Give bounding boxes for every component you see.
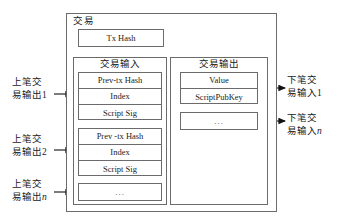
label-next-input-n-line2: 易输入n <box>287 125 322 138</box>
label-next-input-n-line1: 下笔交 <box>287 112 322 125</box>
label-prev-output-n-line1: 上笔交 <box>12 178 47 191</box>
output-1-value: Value <box>181 73 257 89</box>
input-1-prev-tx-hash: Prev-tx Hash <box>79 73 161 89</box>
label-prev-output-2-line1: 上笔交 <box>12 133 47 146</box>
output-group-1: Value ScriptPubKey <box>180 72 258 104</box>
label-next-input-1-line1: 下笔交 <box>287 74 322 87</box>
label-prev-output-1: 上笔交 易输出1 <box>12 76 47 101</box>
label-prev-output-n-index: n <box>42 192 47 202</box>
label-next-input-n-index: n <box>317 126 322 136</box>
input-1-script-sig: Script Sig <box>79 105 161 121</box>
label-prev-output-1-line1: 上笔交 <box>12 76 47 89</box>
input-2-prev-tx-hash: Prev -tx Hash <box>79 129 161 145</box>
label-next-input-1-index: 1 <box>317 88 322 98</box>
label-prev-output-2-index: 2 <box>42 147 47 157</box>
output-ellipsis-box: ... <box>180 112 258 130</box>
input-group-2: Prev -tx Hash Index Script Sig <box>78 128 162 176</box>
output-1-script-pub-key: ScriptPubKey <box>181 89 257 105</box>
label-prev-output-1-line2: 易输出1 <box>12 89 47 102</box>
transaction-outputs-title: 交易输出 <box>170 59 268 70</box>
label-prev-output-n: 上笔交 易输出n <box>12 178 47 203</box>
input-ellipsis-box: ... <box>78 183 162 201</box>
input-1-index: Index <box>79 89 161 105</box>
diagram-canvas: 交易 Tx Hash 交易输入 Prev-tx Hash Index Scrip… <box>0 0 337 223</box>
label-prev-output-1-index: 1 <box>42 90 47 100</box>
label-next-input-1-line2: 易输入1 <box>287 87 322 100</box>
label-prev-output-2-line2: 易输出2 <box>12 146 47 159</box>
input-2-script-sig: Script Sig <box>79 161 161 177</box>
label-next-input-n: 下笔交 易输入n <box>287 112 322 137</box>
input-2-index: Index <box>79 145 161 161</box>
transaction-title: 交易 <box>73 15 94 27</box>
tx-hash-box: Tx Hash <box>78 29 164 47</box>
output-ellipsis-text: ... <box>214 117 224 126</box>
label-prev-output-n-line2: 易输出n <box>12 191 47 204</box>
label-next-input-1: 下笔交 易输入1 <box>287 74 322 99</box>
input-group-1: Prev-tx Hash Index Script Sig <box>78 72 162 120</box>
input-ellipsis-text: ... <box>115 188 125 197</box>
label-prev-output-2: 上笔交 易输出2 <box>12 133 47 158</box>
transaction-inputs-title: 交易输入 <box>73 59 167 70</box>
